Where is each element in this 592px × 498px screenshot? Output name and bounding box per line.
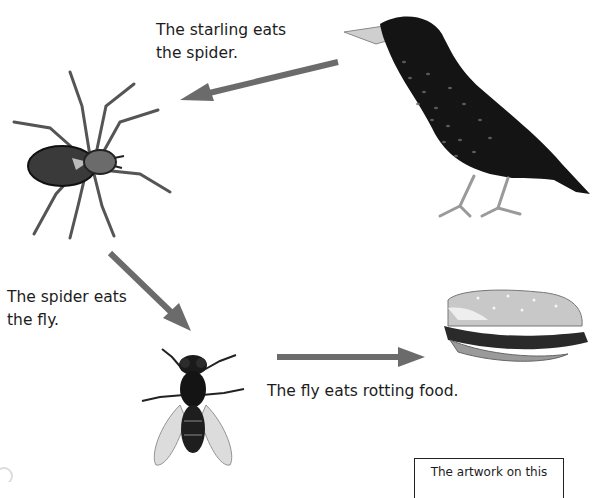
label-line: The spider eats — [7, 286, 127, 309]
spider-icon — [10, 66, 175, 241]
label-fly-eats-food: The fly eats rotting food. — [267, 380, 459, 403]
arrow-starling-to-spider — [180, 62, 338, 101]
sandwich-icon — [438, 286, 590, 366]
label-spider-eats-fly: The spider eats the fly. — [7, 286, 127, 332]
fly-icon — [140, 345, 250, 475]
label-line: The fly eats rotting food. — [267, 380, 459, 403]
arrow-fly-to-food — [277, 347, 425, 367]
faint-corner-icon — [0, 462, 16, 482]
starling-bird-icon — [340, 8, 592, 230]
note-text: The artwork on this — [431, 465, 548, 479]
artwork-note-box: The artwork on this — [414, 458, 564, 498]
label-line: The starling eats — [156, 19, 286, 42]
label-line: the spider. — [156, 42, 286, 65]
label-starling-eats-spider: The starling eats the spider. — [156, 19, 286, 65]
label-line: the fly. — [7, 309, 127, 332]
